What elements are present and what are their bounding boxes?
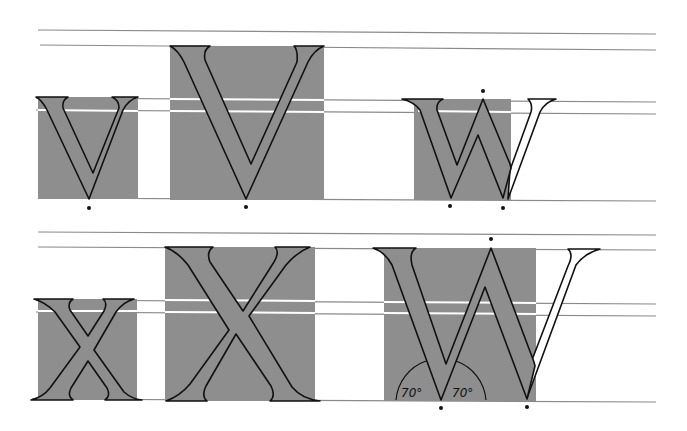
small-w-apex-dot xyxy=(481,89,485,93)
large-w-letter: 70° 70° xyxy=(373,237,600,410)
top-cap-line xyxy=(40,45,656,50)
bottom-ascender-line xyxy=(38,232,656,235)
bottom-cap-line xyxy=(38,247,656,250)
large-w-left-dot xyxy=(439,406,443,410)
small-w-letter xyxy=(402,89,556,210)
small-x-letter xyxy=(31,299,142,400)
small-v-dot xyxy=(87,206,91,210)
right-angle-label: 70° xyxy=(452,386,473,400)
large-w-open-stroke xyxy=(527,249,600,398)
top-row xyxy=(36,30,656,210)
top-ascender-line xyxy=(38,30,656,34)
left-angle-label: 70° xyxy=(401,386,422,400)
bottom-row: 70° 70° xyxy=(31,232,656,410)
large-v-dot xyxy=(244,205,248,209)
small-w-right-dot xyxy=(501,206,505,210)
small-w-open-stroke xyxy=(508,99,556,199)
large-v-letter xyxy=(170,46,324,209)
large-x-letter xyxy=(165,247,320,401)
large-w-apex-dot xyxy=(489,237,493,241)
small-v-letter xyxy=(36,97,138,210)
small-w-left-dot xyxy=(448,204,452,208)
letterform-diagram: 70° 70° xyxy=(0,0,687,431)
large-w-right-dot xyxy=(525,405,529,409)
